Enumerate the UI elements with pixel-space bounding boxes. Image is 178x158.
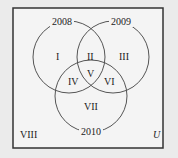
region-VII: VII xyxy=(84,101,98,112)
region-III: III xyxy=(119,51,129,62)
region-V: V xyxy=(87,68,95,79)
region-I: I xyxy=(56,51,59,62)
region-VI: VI xyxy=(104,76,115,87)
region-II: II xyxy=(87,51,94,62)
set-label-2008: 2008 xyxy=(52,16,72,27)
venn-diagram: 2008 2009 2010 I II III IV V VI VII VIII… xyxy=(0,0,178,158)
region-IV: IV xyxy=(68,76,79,87)
universe-label: U xyxy=(153,129,161,140)
set-label-2009: 2009 xyxy=(111,16,131,27)
set-label-2010: 2010 xyxy=(81,126,101,137)
region-VIII: VIII xyxy=(20,129,37,140)
